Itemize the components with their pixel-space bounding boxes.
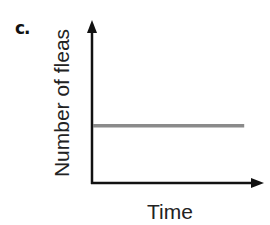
x-axis-arrow-icon	[251, 178, 264, 188]
y-axis-arrow-icon	[87, 20, 97, 33]
y-axis	[87, 20, 97, 184]
chart-plot	[0, 0, 270, 225]
x-axis	[91, 178, 264, 188]
